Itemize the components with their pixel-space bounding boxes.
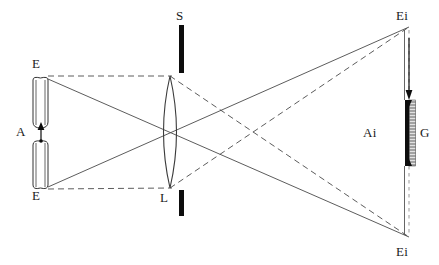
- ray-dashed-lens-top-to-bottom-image: [170, 76, 409, 237]
- object-bottom-cylinder: [33, 141, 48, 189]
- diagram-canvas: E E A S L Ei Ei Ai G: [0, 0, 439, 265]
- label-object-bottom: E: [32, 188, 40, 203]
- ray-solid-top-to-bottom-image: [48, 79, 409, 237]
- ray-dashed-bottom-parallel: [48, 188, 172, 189]
- object-top-cylinder: [33, 77, 48, 128]
- ray-bundle-solid: [48, 27, 409, 237]
- ray-solid-bottom-to-top-image: [48, 27, 409, 187]
- label-stop-top: S: [176, 8, 184, 23]
- label-lens: L: [160, 190, 168, 205]
- optical-diagram-figure: E E A S L Ei Ei Ai G: [0, 0, 439, 265]
- label-object-top: E: [32, 56, 40, 71]
- image-arrow-top: [406, 38, 413, 100]
- label-image-top: Ei: [396, 8, 408, 23]
- aperture-stop-lower: [179, 190, 184, 216]
- label-image-bottom: Ei: [396, 244, 408, 259]
- label-image-arrow: Ai: [363, 125, 377, 140]
- grating-bar-G: [405, 100, 416, 166]
- label-grating: G: [420, 125, 430, 140]
- label-object-arrow: A: [16, 124, 26, 139]
- aperture-stop-upper: [179, 25, 184, 73]
- ray-bundle-dashed: [48, 27, 409, 237]
- ray-dashed-lens-bottom-to-top-image: [170, 27, 409, 188]
